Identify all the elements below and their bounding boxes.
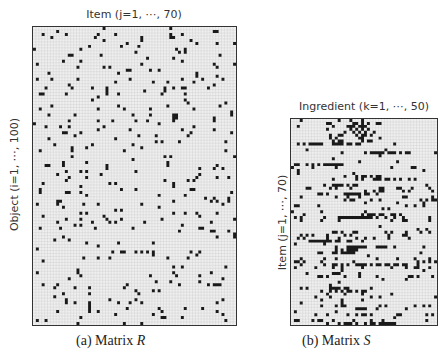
caption-a-var: R: [137, 333, 146, 348]
matrix-r-row-label: Object (i=1, ⋯, 100): [8, 95, 21, 255]
matrix-s: [290, 118, 438, 326]
caption-a: (a) Matrix R: [76, 333, 145, 349]
matrix-s-column-label: Ingredient (k=1, ⋯, 50): [276, 100, 448, 113]
matrix-r: [32, 26, 237, 326]
matrix-r-column-label: Item (j=1, ⋯, 70): [32, 8, 236, 21]
caption-b: (b) Matrix S: [302, 333, 370, 349]
matrix-grid: [33, 27, 236, 325]
caption-b-var: S: [363, 333, 370, 348]
matrix-grid: [291, 119, 437, 325]
caption-a-prefix: (a) Matrix: [76, 333, 137, 348]
matrix-s-row-label: Item (j=1, ⋯, 70): [276, 163, 289, 283]
caption-b-prefix: (b) Matrix: [302, 333, 363, 348]
